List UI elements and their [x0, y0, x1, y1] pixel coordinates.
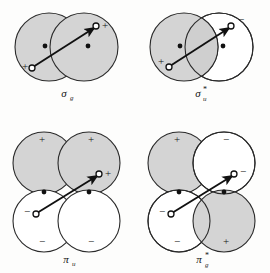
sign-pi-g-star-bottom-left: −	[174, 235, 180, 247]
nucleus-pi-u-right	[87, 190, 92, 195]
mo-diagram-figure: + + σ g + − σ * u	[0, 0, 270, 273]
sign-pi-u-head: +	[105, 167, 111, 179]
label-pi-g-star-symbol: π	[196, 253, 202, 265]
label-pi-u-subscript: u	[72, 260, 76, 268]
axis-head-marker-pi-u	[96, 171, 102, 177]
sign-sigma-g-head: +	[102, 19, 108, 31]
sign-sigma-u-star-head: −	[238, 13, 244, 25]
sign-pi-g-star-head: −	[240, 165, 246, 177]
axis-head-marker-sigma-g	[93, 23, 99, 29]
nucleus-sigma-u-star-right	[221, 44, 226, 49]
label-pi-g-star-subscript: g	[205, 261, 209, 269]
sign-pi-u-top-right: +	[88, 133, 94, 145]
nucleus-sigma-g-left	[43, 44, 48, 49]
nucleus-pi-u-left	[42, 190, 47, 195]
label-pi-u-symbol: π	[63, 253, 69, 265]
sign-pi-g-star-tail: −	[159, 205, 165, 217]
sign-pi-u-bottom-left: −	[39, 235, 45, 247]
mo-diagram-svg: + + σ g + − σ * u	[0, 0, 270, 273]
nucleus-sigma-u-star-left	[178, 44, 183, 49]
sign-pi-u-bottom-right: −	[88, 235, 94, 247]
sign-sigma-u-star-tail: +	[158, 55, 164, 67]
axis-head-marker-pi-g-star	[231, 171, 237, 177]
axis-tail-marker-sigma-u-star	[166, 64, 172, 70]
nucleus-sigma-g-right	[86, 44, 91, 49]
label-sigma-g-subscript: g	[70, 94, 74, 102]
axis-head-marker-sigma-u-star	[228, 23, 234, 29]
sign-pi-u-tail: −	[24, 205, 30, 217]
axis-tail-marker-pi-u	[33, 211, 39, 217]
label-sigma-u-star-superscript: *	[203, 85, 207, 94]
label-sigma-u-star-symbol: σ	[195, 87, 201, 99]
sign-pi-u-top-left: +	[39, 133, 45, 145]
sign-sigma-g-tail: +	[22, 60, 28, 72]
axis-tail-marker-pi-g-star	[168, 211, 174, 217]
sign-pi-g-star-top-right: −	[223, 133, 229, 145]
nucleus-pi-g-star-left	[177, 190, 182, 195]
nucleus-pi-g-star-right	[222, 190, 227, 195]
label-sigma-g-symbol: σ	[61, 87, 67, 99]
label-pi-g-star-superscript: *	[205, 251, 209, 260]
label-sigma-u-star-subscript: u	[203, 95, 207, 103]
axis-tail-marker-sigma-g	[29, 65, 35, 71]
sign-pi-g-star-bottom-right: +	[223, 235, 229, 247]
sign-pi-g-star-top-left: +	[174, 133, 180, 145]
